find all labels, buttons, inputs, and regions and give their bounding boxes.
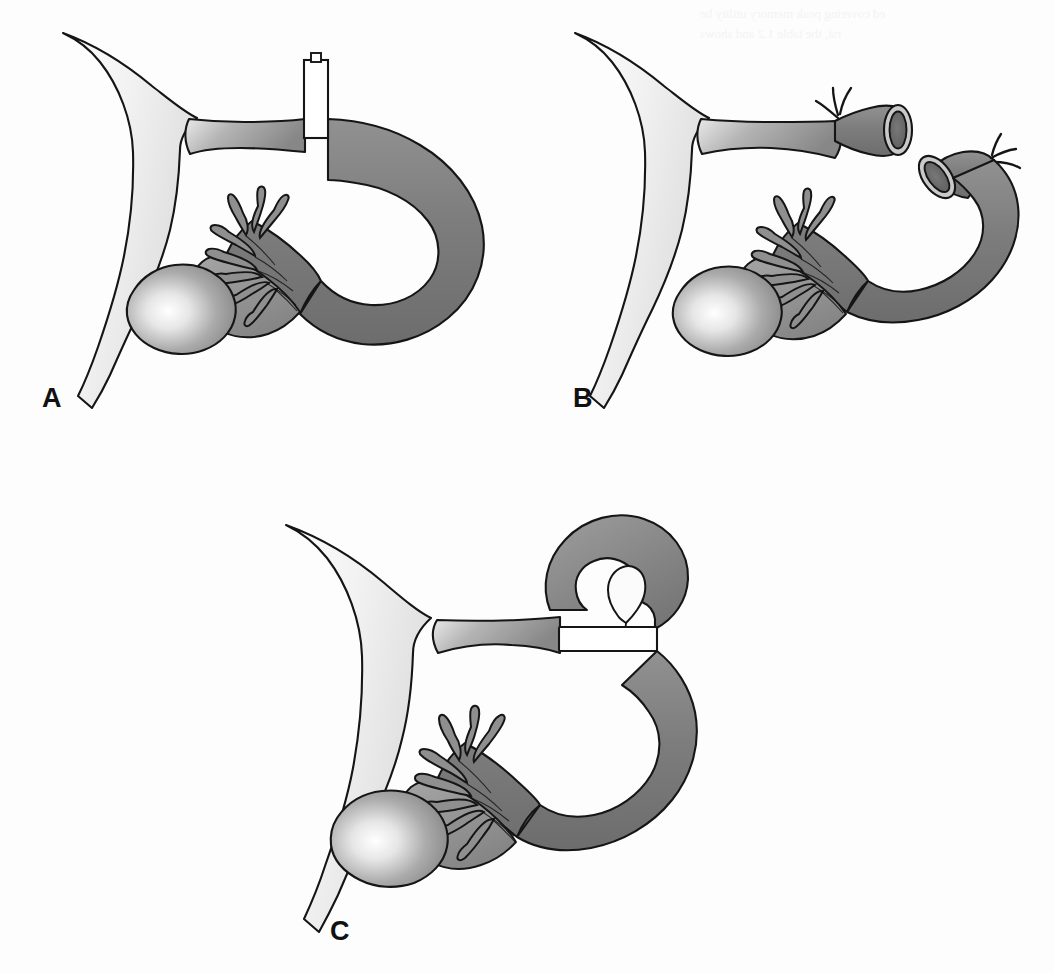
fallopian-tube-proximal xyxy=(697,119,841,158)
panel-b-cut-ligated: B xyxy=(527,0,1054,440)
panel-label-c: C xyxy=(330,918,350,945)
ovary xyxy=(127,265,236,354)
uterus-body xyxy=(575,33,709,408)
figure-root: A xyxy=(0,0,1054,973)
panel-a-illustration xyxy=(0,0,527,440)
ovary xyxy=(331,791,448,887)
panel-a-clip: A xyxy=(0,0,527,440)
falope-ring-band xyxy=(559,627,657,651)
proximal-stump xyxy=(835,105,912,156)
panel-c-falope-ring: C xyxy=(250,460,810,973)
fallopian-tube-proximal xyxy=(185,119,305,154)
page-bleedthrough-artifact: ed covering peak memory utility be rst, … xyxy=(700,4,1030,46)
panel-b-illustration xyxy=(527,0,1054,440)
panel-label-b: B xyxy=(573,385,593,412)
tubal-clip xyxy=(304,53,328,138)
fallopian-tube-proximal xyxy=(433,617,560,653)
proximal-ligature xyxy=(816,88,851,118)
tubal-loop-aperture xyxy=(608,566,645,623)
panel-c-illustration xyxy=(250,460,810,973)
proximal-lumen xyxy=(890,112,907,149)
panel-label-a: A xyxy=(42,385,62,412)
ovary xyxy=(673,267,782,356)
